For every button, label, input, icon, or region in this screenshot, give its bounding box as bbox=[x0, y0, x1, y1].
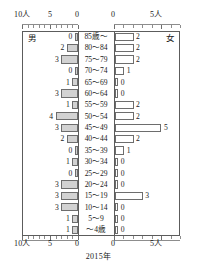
female-bar-track: 0 bbox=[115, 202, 180, 213]
age-group-label: 40〜44 bbox=[78, 133, 114, 144]
pyramid-row: 240〜442 bbox=[0, 133, 197, 144]
male-bar-track: 2 bbox=[22, 133, 78, 144]
male-bar-track: 0 bbox=[22, 145, 78, 156]
pyramid-row: 035〜391 bbox=[0, 145, 197, 156]
male-value-label: 3 bbox=[55, 190, 59, 201]
male-value-label: 3 bbox=[55, 88, 59, 99]
female-bar bbox=[115, 78, 118, 86]
female-bar-track: 1 bbox=[115, 65, 180, 76]
female-value-label: 2 bbox=[136, 99, 140, 110]
female-bar-track: 2 bbox=[115, 133, 180, 144]
pyramid-row: 280〜842 bbox=[0, 42, 197, 53]
female-value-label: 1 bbox=[127, 145, 131, 156]
age-group-label: 25〜29 bbox=[78, 168, 114, 179]
male-bar bbox=[61, 124, 78, 132]
age-group-label: 15〜19 bbox=[78, 190, 114, 201]
pyramid-row: 155〜592 bbox=[0, 99, 197, 110]
male-bar-track: 0 bbox=[22, 168, 78, 179]
female-bar-track: 0 bbox=[115, 88, 180, 99]
male-value-label: 0 bbox=[69, 168, 73, 179]
male-value-label: 4 bbox=[49, 111, 53, 122]
pyramid-row: 085歳〜2 bbox=[0, 31, 197, 42]
female-bar-track: 2 bbox=[115, 54, 180, 65]
pyramid-row: 375〜792 bbox=[0, 54, 197, 65]
female-bar bbox=[115, 112, 134, 120]
female-bar bbox=[115, 192, 143, 200]
pyramid-row: 1〜4歳0 bbox=[0, 224, 197, 235]
female-bar-track: 0 bbox=[115, 179, 180, 190]
age-group-label: 55〜59 bbox=[78, 99, 114, 110]
top-axis-label-right-0: 0 bbox=[111, 9, 115, 20]
pyramid-row: 070〜741 bbox=[0, 65, 197, 76]
pyramid-row: 310〜140 bbox=[0, 202, 197, 213]
female-bar bbox=[115, 169, 118, 177]
female-bar bbox=[115, 203, 118, 211]
pyramid-row: 450〜542 bbox=[0, 111, 197, 122]
age-group-label: 30〜34 bbox=[78, 156, 114, 167]
age-group-label: 50〜54 bbox=[78, 111, 114, 122]
age-group-label: 〜4歳 bbox=[78, 224, 114, 235]
female-bar bbox=[115, 146, 124, 154]
male-value-label: 0 bbox=[69, 31, 73, 42]
female-bar bbox=[115, 226, 118, 234]
male-bar-track: 1 bbox=[22, 156, 78, 167]
top-axis-label-left-5: 5 bbox=[48, 9, 52, 20]
female-bar-track: 2 bbox=[115, 31, 180, 42]
pyramid-row: 025〜290 bbox=[0, 168, 197, 179]
pyramid-row: 15〜90 bbox=[0, 213, 197, 224]
female-bar-track: 0 bbox=[115, 77, 180, 88]
chart-year-label: 2015年 bbox=[0, 250, 197, 261]
male-value-label: 0 bbox=[69, 65, 73, 76]
female-value-label: 0 bbox=[121, 179, 125, 190]
male-value-label: 2 bbox=[61, 42, 65, 53]
male-bar bbox=[61, 89, 78, 97]
male-bar-track: 0 bbox=[22, 31, 78, 42]
male-bar-track: 1 bbox=[22, 224, 78, 235]
male-bar bbox=[67, 135, 78, 143]
female-bar-track: 0 bbox=[115, 224, 180, 235]
female-value-label: 2 bbox=[136, 54, 140, 65]
pyramid-rows: 085歳〜2280〜842375〜792070〜741165〜690360〜64… bbox=[0, 31, 197, 236]
male-bar bbox=[67, 44, 78, 52]
female-value-label: 2 bbox=[136, 133, 140, 144]
female-bar bbox=[115, 158, 118, 166]
male-bar-track: 3 bbox=[22, 88, 78, 99]
pyramid-row: 165〜690 bbox=[0, 77, 197, 88]
top-axis-ticks-left bbox=[22, 24, 78, 29]
female-bar-track: 2 bbox=[115, 111, 180, 122]
male-value-label: 1 bbox=[66, 213, 70, 224]
pyramid-row: 130〜340 bbox=[0, 156, 197, 167]
female-value-label: 0 bbox=[121, 156, 125, 167]
female-bar-track: 2 bbox=[115, 42, 180, 53]
female-bar bbox=[115, 101, 134, 109]
male-bar-track: 3 bbox=[22, 122, 78, 133]
top-axis-ticks-right bbox=[114, 24, 180, 29]
female-bar bbox=[115, 180, 118, 188]
female-bar bbox=[115, 215, 118, 223]
male-value-label: 1 bbox=[66, 224, 70, 235]
male-bar-track: 3 bbox=[22, 190, 78, 201]
pyramid-row: 320〜240 bbox=[0, 179, 197, 190]
bottom-axis-label-right-5: 5人 bbox=[150, 238, 162, 249]
male-bar-track: 1 bbox=[22, 213, 78, 224]
male-bar-track: 3 bbox=[22, 202, 78, 213]
male-bar-track: 1 bbox=[22, 77, 78, 88]
female-value-label: 2 bbox=[136, 42, 140, 53]
male-value-label: 3 bbox=[55, 122, 59, 133]
female-bar-track: 3 bbox=[115, 190, 180, 201]
female-value-label: 1 bbox=[127, 65, 131, 76]
female-value-label: 5 bbox=[164, 122, 168, 133]
female-value-label: 0 bbox=[121, 224, 125, 235]
male-bar-track: 4 bbox=[22, 111, 78, 122]
top-axis-label-left-0: 0 bbox=[75, 9, 79, 20]
top-axis-label-right-5: 5人 bbox=[150, 9, 162, 20]
age-group-label: 10〜14 bbox=[78, 202, 114, 213]
age-group-label: 80〜84 bbox=[78, 42, 114, 53]
pyramid-row: 345〜495 bbox=[0, 122, 197, 133]
female-bar bbox=[115, 89, 118, 97]
male-bar-track: 3 bbox=[22, 179, 78, 190]
male-bar bbox=[61, 203, 78, 211]
male-bar bbox=[61, 180, 78, 188]
age-group-label: 20〜24 bbox=[78, 179, 114, 190]
female-bar-track: 1 bbox=[115, 145, 180, 156]
